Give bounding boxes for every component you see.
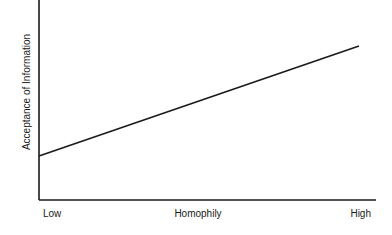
x-axis-label: Homophily bbox=[172, 208, 224, 220]
y-axis-label: Acceptance of Information bbox=[21, 29, 33, 155]
x-tick-high: High bbox=[343, 208, 371, 220]
chart-canvas bbox=[0, 0, 392, 235]
x-tick-low: Low bbox=[43, 208, 61, 220]
data-line bbox=[39, 46, 359, 156]
